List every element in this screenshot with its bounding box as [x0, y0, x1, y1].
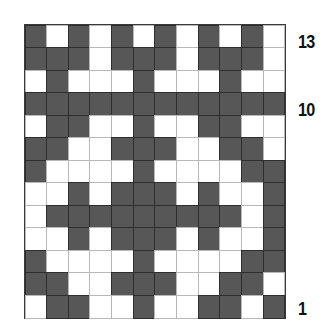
row-label-13: 13 [298, 31, 314, 53]
chart-cell-row10-col8-dark [176, 92, 199, 116]
chart-cell-row1-col2-dark [46, 295, 69, 319]
chart-cell-row4-col2-light [46, 227, 69, 251]
chart-cell-row7-col11-dark [241, 160, 264, 184]
chart-cell-row7-col6-dark [133, 160, 156, 184]
chart-cell-row10-col4-dark [89, 92, 112, 116]
chart-cell-row5-col5-dark [111, 205, 134, 229]
chart-cell-row13-col8-light [176, 25, 199, 49]
chart-cell-row12-col3-dark [68, 47, 91, 71]
chart-cell-row4-col6-dark [133, 227, 156, 251]
chart-cell-row7-col3-light [68, 160, 91, 184]
chart-cell-row11-col8-light [176, 70, 199, 94]
chart-cell-row6-col5-dark [111, 182, 134, 206]
chart-cell-row9-col2-dark [46, 115, 69, 139]
chart-cell-row8-col2-dark [46, 137, 69, 161]
chart-cell-row6-col8-light [176, 182, 199, 206]
chart-cell-row12-col9-dark [198, 47, 221, 71]
chart-cell-row10-col5-dark [111, 92, 134, 116]
chart-cell-row11-col1-light [25, 70, 48, 94]
chart-cell-row13-col5-dark [111, 25, 134, 49]
chart-cell-row8-col6-dark [133, 137, 156, 161]
chart-cell-row1-col1-light [25, 295, 48, 319]
chart-cell-row5-col12-dark [263, 205, 286, 229]
chart-cell-row12-col8-light [176, 47, 199, 71]
chart-cell-row11-col12-light [263, 70, 286, 94]
chart-cell-row1-col6-dark [133, 295, 156, 319]
chart-cell-row6-col4-light [89, 182, 112, 206]
chart-cell-row10-col7-dark [154, 92, 177, 116]
chart-cell-row13-col11-dark [241, 25, 264, 49]
chart-cell-row2-col3-light [68, 272, 91, 296]
chart-cell-row9-col5-light [111, 115, 134, 139]
chart-cell-row8-col9-light [198, 137, 221, 161]
chart-cell-row13-col12-light [263, 25, 286, 49]
chart-cell-row7-col10-light [219, 160, 242, 184]
chart-cell-row3-col5-light [111, 250, 134, 274]
chart-cell-row9-col7-light [154, 115, 177, 139]
chart-cell-row10-col3-dark [68, 92, 91, 116]
chart-cell-row2-col7-dark [154, 272, 177, 296]
chart-cell-row5-col3-dark [68, 205, 91, 229]
chart-cell-row6-col11-light [241, 182, 264, 206]
chart-cell-row1-col11-light [241, 295, 264, 319]
chart-cell-row12-col5-dark [111, 47, 134, 71]
chart-cell-row12-col11-dark [241, 47, 264, 71]
chart-cell-row5-col4-dark [89, 205, 112, 229]
chart-cell-row10-col12-dark [263, 92, 286, 116]
chart-cell-row13-col6-light [133, 25, 156, 49]
chart-cell-row7-col7-light [154, 160, 177, 184]
chart-cell-row8-col1-dark [25, 137, 48, 161]
row-label-10: 10 [298, 99, 314, 121]
chart-cell-row4-col9-dark [198, 227, 221, 251]
chart-cell-row3-col2-light [46, 250, 69, 274]
chart-cell-row3-col8-light [176, 250, 199, 274]
chart-cell-row3-col1-dark [25, 250, 48, 274]
chart-cell-row6-col10-light [219, 182, 242, 206]
chart-cell-row5-col7-dark [154, 205, 177, 229]
chart-cell-row9-col11-light [241, 115, 264, 139]
chart-cell-row10-col1-dark [25, 92, 48, 116]
chart-cell-row8-col11-dark [241, 137, 264, 161]
chart-cell-row6-col3-dark [68, 182, 91, 206]
chart-cell-row6-col12-dark [263, 182, 286, 206]
chart-cell-row1-col4-light [89, 295, 112, 319]
chart-cell-row4-col7-dark [154, 227, 177, 251]
chart-cell-row4-col10-light [219, 227, 242, 251]
chart-cell-row7-col1-dark [25, 160, 48, 184]
chart-cell-row5-col9-dark [198, 205, 221, 229]
chart-cell-row5-col11-light [241, 205, 264, 229]
chart-cell-row11-col2-dark [46, 70, 69, 94]
chart-cell-row3-col9-light [198, 250, 221, 274]
chart-cell-row11-col3-light [68, 70, 91, 94]
chart-cell-row5-col10-dark [219, 205, 242, 229]
chart-cell-row4-col3-dark [68, 227, 91, 251]
chart-cell-row12-col1-dark [25, 47, 48, 71]
chart-cell-row4-col4-light [89, 227, 112, 251]
chart-cell-row5-col6-dark [133, 205, 156, 229]
chart-cell-row11-col4-light [89, 70, 112, 94]
chart-cell-row9-col12-light [263, 115, 286, 139]
chart-cell-row5-col2-dark [46, 205, 69, 229]
chart-cell-row3-col3-light [68, 250, 91, 274]
chart-cell-row9-col1-light [25, 115, 48, 139]
chart-cell-row1-col9-dark [198, 295, 221, 319]
chart-cell-row7-col8-light [176, 160, 199, 184]
chart-cell-row13-col7-dark [154, 25, 177, 49]
chart-cell-row13-col9-dark [198, 25, 221, 49]
chart-cell-row2-col4-light [89, 272, 112, 296]
chart-cell-row12-col12-light [263, 47, 286, 71]
chart-cell-row10-col10-dark [219, 92, 242, 116]
chart-cell-row1-col10-dark [219, 295, 242, 319]
chart-cell-row3-col7-light [154, 250, 177, 274]
chart-cell-row2-col2-dark [46, 272, 69, 296]
chart-cell-row11-col10-dark [219, 70, 242, 94]
chart-cell-row13-col2-light [46, 25, 69, 49]
chart-cell-row7-col5-light [111, 160, 134, 184]
chart-cell-row8-col12-light [263, 137, 286, 161]
chart-cell-row1-col7-light [154, 295, 177, 319]
chart-cell-row2-col5-dark [111, 272, 134, 296]
chart-cell-row2-col12-light [263, 272, 286, 296]
chart-cell-row8-col8-light [176, 137, 199, 161]
chart-cell-row3-col12-dark [263, 250, 286, 274]
chart-cell-row1-col5-light [111, 295, 134, 319]
